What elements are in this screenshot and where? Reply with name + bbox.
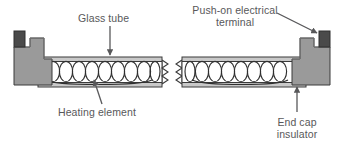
label-push-on-terminal-line1: Push-on electrical [180,4,290,16]
break-mark-right [176,60,182,84]
push-on-electrical-terminal-left [14,31,25,47]
label-end-cap-insulator-line2: insulator [258,128,336,140]
label-end-cap-insulator: End cap insulator [258,116,336,140]
label-push-on-terminal: Push-on electrical terminal [180,4,290,28]
break-mark-left [162,60,168,84]
label-push-on-terminal-line2: terminal [180,16,290,28]
label-glass-tube: Glass tube [78,12,129,24]
heater-diagram: Glass tube Push-on electrical terminal H… [0,0,338,151]
push-on-electrical-terminal-right [319,31,330,47]
label-end-cap-insulator-line1: End cap [258,116,336,128]
label-heating-element: Heating element [58,106,136,118]
